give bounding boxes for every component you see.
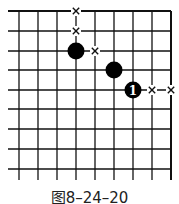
- go-board: 1: [0, 0, 179, 186]
- figure-caption: 图8–24–20: [0, 186, 179, 204]
- black-stone: [68, 43, 85, 60]
- stone-label: 1: [129, 84, 137, 98]
- black-stone: [106, 62, 123, 79]
